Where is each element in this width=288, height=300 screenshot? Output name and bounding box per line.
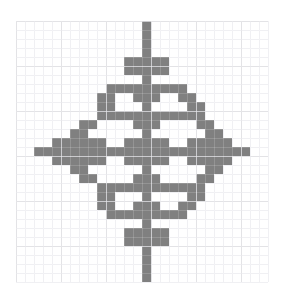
cross-stitch-pattern-figure <box>0 0 288 300</box>
pattern-grid-canvas <box>0 0 288 300</box>
